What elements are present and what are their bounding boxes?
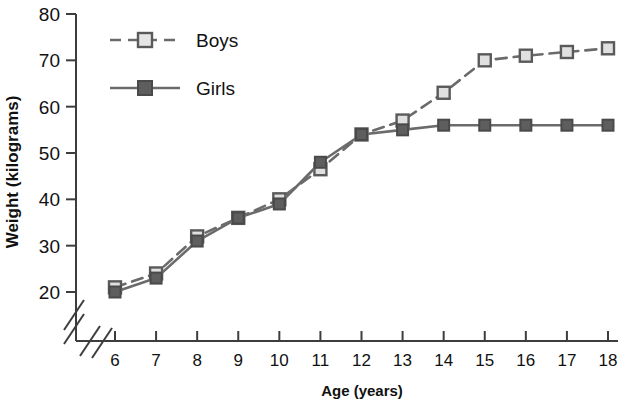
axes bbox=[76, 14, 618, 341]
x-tick-label: 16 bbox=[516, 351, 535, 370]
chart-canvas: Weight (kilograms) Age (years) 203040506… bbox=[0, 0, 624, 402]
y-tick-label: 50 bbox=[39, 143, 60, 164]
x-tick-label: 17 bbox=[557, 351, 576, 370]
y-tick-label: 20 bbox=[39, 282, 60, 303]
y-axis-label-text: Weight (kilograms) bbox=[3, 96, 22, 249]
series-line-boys bbox=[115, 48, 608, 287]
x-tick-label: 9 bbox=[234, 351, 243, 370]
y-tick-label: 70 bbox=[39, 50, 60, 71]
x-tick-label: 11 bbox=[312, 351, 330, 370]
data-point-marker bbox=[479, 120, 490, 131]
data-point-marker bbox=[438, 120, 449, 131]
y-tick-label: 60 bbox=[39, 97, 60, 118]
data-point-marker bbox=[520, 120, 531, 131]
series-layer bbox=[109, 42, 614, 297]
y-tick-label: 30 bbox=[39, 236, 60, 257]
y-tick-label: 40 bbox=[39, 189, 60, 210]
x-tick-label: 13 bbox=[393, 351, 412, 370]
x-axis-ticks: 6789101112131415161718 bbox=[110, 331, 617, 370]
data-point-marker bbox=[520, 50, 532, 62]
data-point-marker bbox=[274, 198, 285, 209]
x-tick-label: 15 bbox=[475, 351, 494, 370]
legend-girls-label: Girls bbox=[196, 78, 235, 99]
series-girls bbox=[110, 120, 614, 298]
series-boys bbox=[109, 42, 614, 293]
x-tick-label: 14 bbox=[434, 351, 453, 370]
series-line-girls bbox=[115, 125, 608, 292]
chart-legend: Boys Girls bbox=[110, 30, 238, 99]
data-point-marker bbox=[151, 273, 162, 284]
x-axis-label-text: Age (years) bbox=[321, 382, 403, 399]
data-point-marker bbox=[603, 120, 614, 131]
data-point-marker bbox=[561, 46, 573, 58]
y-axis-label: Weight (kilograms) bbox=[3, 96, 22, 249]
y-axis-ticks: 20304050607080 bbox=[39, 4, 76, 303]
x-tick-label: 8 bbox=[192, 351, 201, 370]
x-tick-label: 10 bbox=[270, 351, 289, 370]
data-point-marker bbox=[479, 54, 491, 66]
y-tick-label: 80 bbox=[39, 4, 60, 25]
y-axis-break-icon bbox=[64, 300, 84, 344]
data-point-marker bbox=[192, 236, 203, 247]
data-point-marker bbox=[602, 42, 614, 54]
data-point-marker bbox=[397, 124, 408, 135]
legend-boys-marker-icon bbox=[138, 33, 152, 47]
x-tick-label: 18 bbox=[599, 351, 618, 370]
legend-entry-girls: Girls bbox=[110, 78, 235, 99]
weight-vs-age-line-chart: Weight (kilograms) Age (years) 203040506… bbox=[0, 0, 624, 402]
x-tick-label: 7 bbox=[151, 351, 160, 370]
x-tick-label: 6 bbox=[110, 351, 119, 370]
legend-girls-marker-icon bbox=[138, 81, 152, 95]
legend-entry-boys: Boys bbox=[110, 30, 238, 51]
data-point-marker bbox=[561, 120, 572, 131]
data-point-marker bbox=[233, 212, 244, 223]
data-point-marker bbox=[438, 87, 450, 99]
data-point-marker bbox=[356, 129, 367, 140]
legend-boys-label: Boys bbox=[196, 30, 238, 51]
x-tick-label: 12 bbox=[352, 351, 371, 370]
data-point-marker bbox=[315, 157, 326, 168]
data-point-marker bbox=[110, 287, 121, 298]
